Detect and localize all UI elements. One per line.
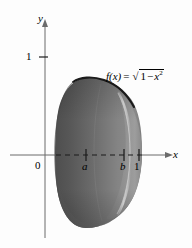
x-axis-arrowhead bbox=[165, 152, 173, 158]
x-tick-label-1: 1 bbox=[134, 161, 140, 172]
radicand-exponent: 2 bbox=[159, 69, 163, 77]
equals-sign: = bbox=[121, 70, 131, 82]
origin-label: 0 bbox=[35, 160, 41, 171]
solid-shading-overlay bbox=[55, 78, 142, 228]
x-axis-label: x bbox=[173, 149, 178, 160]
y-tick-label-1: 1 bbox=[26, 51, 32, 62]
function-name: f(x) bbox=[106, 70, 121, 82]
y-axis-label: y bbox=[38, 13, 43, 24]
solid-of-revolution-figure: y x 0 1 a b 1 f(x)=√1−x2 bbox=[0, 0, 192, 248]
function-annotation: f(x)=√1−x2 bbox=[106, 69, 164, 82]
x-tick-label-b: b bbox=[120, 161, 126, 172]
x-tick-label-a: a bbox=[82, 161, 88, 172]
radicand: 1−x2 bbox=[139, 69, 164, 82]
solid-of-revolution bbox=[55, 78, 142, 228]
figure-canvas bbox=[0, 0, 192, 248]
radical-expression: √1−x2 bbox=[131, 69, 163, 82]
